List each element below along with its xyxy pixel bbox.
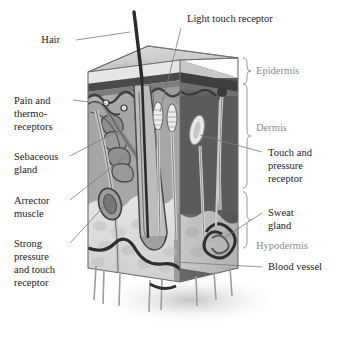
label-layer-dermis: Dermis — [256, 122, 287, 133]
label-arrector-muscle-line2: muscle — [14, 208, 44, 219]
brace-hypodermis — [243, 192, 251, 248]
label-arrector-muscle-line1: Arrector — [14, 195, 50, 206]
label-pain-thermoreceptors-line2: thermo- — [14, 108, 48, 119]
label-strong-pressure-line3: and touch — [14, 264, 56, 275]
brace-epidermis — [243, 58, 251, 84]
label-layer-epidermis: Epidermis — [256, 65, 299, 76]
label-blood-vessel: Blood vessel — [268, 261, 322, 272]
label-pain-thermoreceptors-line3: receptors — [14, 121, 52, 132]
label-sweat-gland-line2: gland — [268, 220, 292, 231]
label-hair: Hair — [41, 34, 60, 45]
label-touch-pressure-line1: Touch and — [268, 147, 313, 158]
label-sebaceous-gland-line2: gland — [14, 164, 38, 175]
label-strong-pressure-line2: pressure — [14, 251, 49, 262]
layer-braces — [243, 58, 251, 248]
label-touch-pressure-line3: receptor — [268, 173, 303, 184]
brace-dermis — [243, 84, 251, 188]
label-light-touch-receptor: Light touch receptor — [187, 13, 273, 24]
skin-diagram-figure: Hair Light touch receptor Pain and therm… — [0, 0, 345, 344]
label-sweat-gland-line1: Sweat — [268, 207, 294, 218]
label-sebaceous-gland-line1: Sebaceous — [14, 151, 58, 162]
skin-block — [86, 12, 240, 312]
label-strong-pressure-line1: Strong — [14, 238, 43, 249]
drop-shadow — [95, 274, 285, 326]
label-pain-thermoreceptors-line1: Pain and — [14, 95, 51, 106]
leader-hair — [76, 32, 130, 40]
label-layer-hypodermis: Hypodermis — [256, 240, 308, 251]
label-strong-pressure-line4: receptor — [14, 277, 49, 288]
label-touch-pressure-line2: pressure — [268, 160, 303, 171]
